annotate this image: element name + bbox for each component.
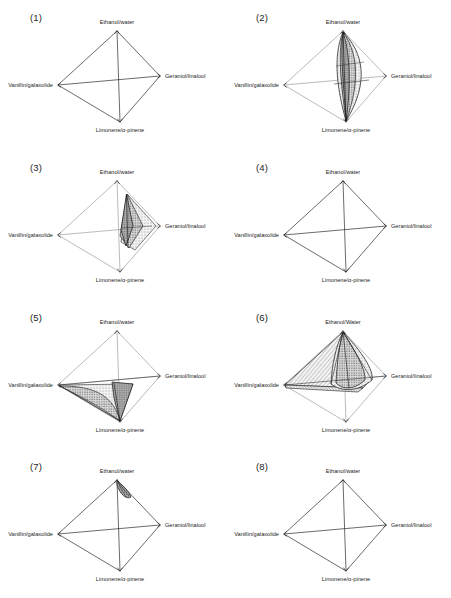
vertex-ticks: [284, 180, 387, 272]
panel-7-label-top: Ethanol/water: [100, 468, 135, 474]
panel-2-label-left: Vanillin/galaxolide: [234, 82, 279, 88]
panel-3-label-top: Ethanol/water: [100, 169, 135, 175]
panel-6-label-left: Vanillin/galaxolide: [234, 382, 279, 388]
panel-3-region-wedge: [120, 194, 156, 250]
panel-5-index-label: (5): [30, 312, 42, 323]
panel-8-label-top: Ethanol/water: [326, 468, 361, 474]
panel-2-label-top: Ethanol/water: [326, 19, 361, 25]
panel-1-label-left: Vanillin/galaxolide: [8, 82, 53, 88]
figure-grid: (1) Ethanol/water Geraniol/linalool Vani…: [0, 0, 451, 598]
panel-4-label-right: Geraniol/linalool: [391, 223, 431, 229]
panel-5-label-bottom: Limonene/α-pinene: [96, 427, 144, 433]
panel-1-index-label: (1): [30, 12, 42, 23]
panel-6-label-top: Ethanol/Water: [325, 319, 361, 325]
panel-5-label-left: Vanillin/galaxolide: [8, 382, 53, 388]
panel-7-index-label: (7): [30, 461, 42, 472]
panel-7-region-sliver: [117, 481, 131, 498]
panel-2-label-right: Geraniol/linalool: [391, 73, 431, 79]
panel-4-index-label: (4): [256, 162, 268, 173]
tetra-edges: [58, 31, 160, 122]
panel-6: (6): [226, 300, 451, 449]
vertex-ticks: [284, 30, 387, 122]
tetra-edges: [284, 31, 386, 122]
panel-7-label-right: Geraniol/linalool: [165, 522, 205, 528]
panel-2-region-spindle: [334, 32, 369, 121]
panel-3-label-left: Vanillin/galaxolide: [8, 232, 53, 238]
vertex-ticks: [284, 479, 387, 571]
panel-6-label-bottom: Limonene/α-pinene: [322, 427, 370, 433]
vertex-ticks: [58, 30, 161, 122]
panel-8: (8) Ethanol/water Geraniol/linalool Vani…: [226, 449, 451, 598]
panel-8-label-bottom: Limonene/α-pinene: [322, 576, 370, 582]
panel-5-label-right: Geraniol/linalool: [165, 373, 205, 379]
panel-8-label-right: Geraniol/linalool: [391, 522, 431, 528]
panel-8-index-label: (8): [256, 461, 268, 472]
panel-2: (2): [226, 0, 451, 149]
panel-6-index-label: (6): [256, 312, 268, 323]
panel-4: (4) Ethanol/water Geraniol/linalool Vani…: [226, 150, 451, 299]
panel-7-label-bottom: Limonene/α-pinene: [96, 576, 144, 582]
tetra-edges: [58, 480, 160, 571]
panel-6-label-right: Geraniol/linalool: [391, 373, 431, 379]
panel-4-label-bottom: Limonene/α-pinene: [322, 277, 370, 283]
panel-5-label-top: Ethanol/water: [100, 319, 135, 325]
panel-3-index-label: (3): [30, 162, 42, 173]
panel-5-region-wing: [59, 376, 160, 421]
panel-4-label-top: Ethanol/water: [326, 169, 361, 175]
panel-1-label-bottom: Limonene/α-pinene: [96, 127, 144, 133]
panel-2-label-bottom: Limonene/α-pinene: [322, 127, 370, 133]
tetra-edges: [284, 181, 386, 272]
panel-1-label-right: Geraniol/linalool: [165, 73, 205, 79]
panel-1: (1) Ethanol/water Geraniol/linalool Vani…: [0, 0, 225, 149]
panel-3-label-right: Geraniol/linalool: [165, 223, 205, 229]
tetra-edges: [284, 480, 386, 571]
panel-5: (5): [0, 300, 225, 449]
panel-1-label-top: Ethanol/water: [100, 19, 135, 25]
panel-3: (3) E: [0, 150, 225, 299]
panel-7: (7) Ethanol/water: [0, 449, 225, 598]
panel-7-label-left: Vanillin/galaxolide: [8, 531, 53, 537]
panel-3-label-bottom: Limonene/α-pinene: [96, 277, 144, 283]
panel-4-label-left: Vanillin/galaxolide: [234, 232, 279, 238]
panel-8-label-left: Vanillin/galaxolide: [234, 531, 279, 537]
panel-2-index-label: (2): [256, 12, 268, 23]
vertex-ticks: [58, 479, 161, 571]
